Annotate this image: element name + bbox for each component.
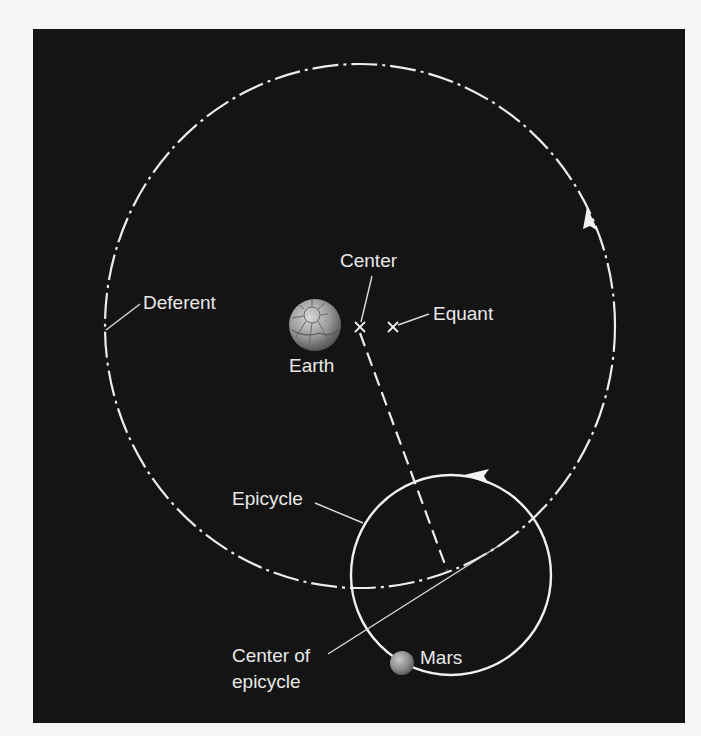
deferent-arrow-icon: [583, 207, 598, 231]
deferent-label: Deferent: [143, 292, 217, 313]
epicycle-circle: [351, 475, 551, 675]
epicycle-label: Epicycle: [232, 488, 303, 509]
center-of-epicycle-label-line2: epicycle: [232, 671, 301, 692]
equant-label: Equant: [433, 303, 494, 324]
earth-label: Earth: [289, 355, 334, 376]
radius-line: [360, 333, 447, 570]
ptolemaic-diagram: Deferent Center Equant Earth Epicycle Ce…: [0, 0, 701, 736]
deferent-leader-line: [106, 304, 140, 330]
epicycle-leader-line: [315, 503, 363, 523]
mars-label: Mars: [420, 647, 462, 668]
equant-leader-line: [398, 314, 429, 325]
equant-mark-icon: [388, 322, 398, 332]
earth-icon: [289, 299, 341, 351]
center-leader-line: [361, 276, 372, 322]
mars-icon: [390, 651, 414, 675]
center-mark-icon: [355, 322, 365, 332]
center-label: Center: [340, 250, 398, 271]
center-of-epicycle-label-line1: Center of: [232, 645, 311, 666]
